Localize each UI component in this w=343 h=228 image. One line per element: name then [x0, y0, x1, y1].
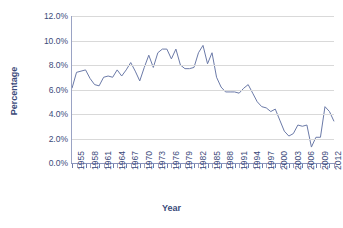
- x-tick-label: 2006: [306, 151, 316, 170]
- x-tick-label: 1997: [266, 151, 276, 170]
- x-tick-label: 1967: [130, 151, 140, 170]
- x-tick-label: 1955: [76, 151, 86, 170]
- x-axis-title: Year: [0, 203, 343, 213]
- x-tick-label: 1976: [171, 151, 181, 170]
- x-tick-label: 1964: [117, 151, 127, 170]
- x-tick-label: 2009: [320, 151, 330, 170]
- x-tick-label: 1991: [239, 151, 249, 170]
- x-tick-label: 1961: [103, 151, 113, 170]
- x-tick-label: 1985: [212, 151, 222, 170]
- x-tick-label: 1994: [252, 151, 262, 170]
- x-tick-label: 2003: [293, 151, 303, 170]
- x-tick-label: 1958: [90, 151, 100, 170]
- x-axis-labels: 1955195819611964196719701973197619791982…: [0, 0, 343, 228]
- x-tick-label: 1988: [225, 151, 235, 170]
- chart-container: Percentage 12.0% 10.0% 8.0% 6.0% 4.0% 2.…: [0, 0, 343, 228]
- x-tick-label: 2012: [333, 151, 343, 170]
- x-tick-label: 1982: [198, 151, 208, 170]
- x-tick-label: 2000: [279, 151, 289, 170]
- x-tick-label: 1970: [144, 151, 154, 170]
- x-tick-label: 1973: [157, 151, 167, 170]
- x-tick-label: 1979: [184, 151, 194, 170]
